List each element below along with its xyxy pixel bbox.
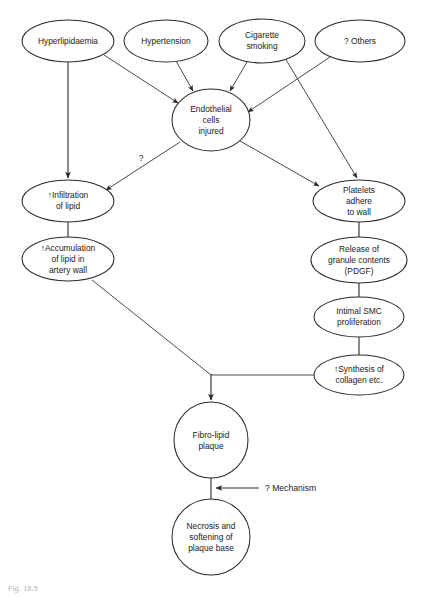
edge-cigarette-to-endothelial: [230, 62, 247, 91]
edge-endothelial-to-platelets: [240, 141, 319, 186]
edge-label-question-mark: ?: [139, 153, 144, 163]
node-infiltration-of-lipid[interactable]: ↑Infiltration of lipid: [22, 180, 114, 222]
diagram-canvas: Hyperlipidaemia Hypertension Cigarette s…: [0, 0, 426, 599]
node-accumulation-label-line3: artery wall: [49, 265, 87, 275]
node-release-label-line1: Release of: [339, 244, 380, 254]
node-intimal-smc-proliferation[interactable]: Intimal SMC proliferation: [314, 297, 404, 337]
node-platelets-label-line1: Platelets: [343, 185, 375, 195]
edge-accumulation-to-plaque: [92, 280, 211, 375]
node-synthesis-label-line2: collagen etc.: [335, 375, 382, 385]
node-endothelial-cells-injured[interactable]: Endothelial cells injured: [172, 89, 250, 151]
node-fibro-lipid-plaque[interactable]: Fibro-lipid plaque: [174, 402, 248, 478]
node-platelets-label-line2: adhere: [346, 196, 372, 206]
edge-endothelial-to-infiltration: [106, 142, 180, 190]
node-hypertension-label: Hypertension: [141, 36, 191, 46]
node-platelets-label-line3: to wall: [347, 207, 371, 217]
node-release-label-line2: granule contents: [328, 255, 390, 265]
node-endothelial-label-line3: injured: [198, 126, 223, 136]
nodes-layer: Hyperlipidaemia Hypertension Cigarette s…: [22, 19, 407, 575]
node-necrosis-and-softening[interactable]: Necrosis and softening of plaque base: [172, 499, 250, 575]
node-necrosis-label-line3: plaque base: [188, 543, 234, 553]
node-endothelial-label-line1: Endothelial: [190, 104, 232, 114]
node-intimal-label-line1: Intimal SMC: [336, 306, 382, 316]
edge-cigarette-to-platelets: [285, 58, 357, 178]
node-fibro-lipid-plaque-label-line2: plaque: [198, 441, 223, 451]
node-endothelial-label-line2: cells: [203, 115, 220, 125]
edge-hypertension-to-endothelial: [176, 61, 193, 91]
node-accumulation-label-line1: ↑Accumulation: [41, 243, 96, 253]
node-release-of-granule-contents[interactable]: Release of granule contents (PDGF): [311, 237, 407, 283]
node-others-label: ? Others: [344, 36, 376, 46]
node-platelets-adhere-to-wall[interactable]: Platelets adhere to wall: [313, 180, 405, 222]
node-hypertension[interactable]: Hypertension: [124, 20, 208, 62]
node-infiltration-label-line2: of lipid: [56, 201, 81, 211]
figure-caption: Fig. 18.5: [8, 585, 38, 592]
node-intimal-label-line2: proliferation: [337, 317, 381, 327]
node-cigarette-smoking[interactable]: Cigarette smoking: [219, 19, 305, 63]
node-others[interactable]: ? Others: [315, 20, 405, 62]
node-synthesis-label-line1: ↑Synthesis of: [334, 364, 384, 374]
node-synthesis-of-collagen[interactable]: ↑Synthesis of collagen etc.: [314, 355, 404, 395]
node-accumulation-of-lipid[interactable]: ↑Accumulation of lipid in artery wall: [22, 237, 114, 281]
node-fibro-lipid-plaque-label-line1: Fibro-lipid: [193, 430, 230, 440]
node-infiltration-label-line1: ↑Infiltration: [48, 190, 89, 200]
node-cigarette-smoking-label-line2: smoking: [246, 41, 278, 51]
node-hyperlipidaemia[interactable]: Hyperlipidaemia: [22, 20, 114, 62]
edge-label-mechanism: ? Mechanism: [265, 483, 316, 493]
node-hyperlipidaemia-label: Hyperlipidaemia: [38, 36, 98, 46]
node-release-label-line3: (PDGF): [345, 266, 374, 276]
node-necrosis-label-line2: softening of: [189, 532, 233, 542]
node-accumulation-label-line2: of lipid in: [51, 254, 84, 264]
flow-diagram: Hyperlipidaemia Hypertension Cigarette s…: [0, 0, 426, 599]
node-cigarette-smoking-label-line1: Cigarette: [245, 30, 279, 40]
node-necrosis-label-line1: Necrosis and: [187, 521, 236, 531]
